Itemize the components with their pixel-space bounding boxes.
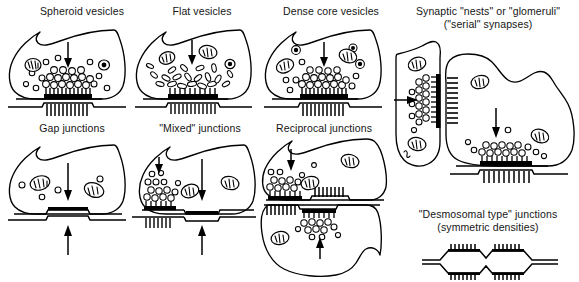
postsynaptic-density-right	[447, 78, 458, 123]
mitochondrion	[179, 182, 200, 200]
signal-direction-arrow-up	[316, 237, 324, 259]
mitochondrion	[274, 56, 296, 75]
synaptic-vesicles-left	[409, 61, 429, 132]
panel-synaptic-nests	[392, 34, 578, 196]
desmosomal-density-lower	[448, 272, 524, 280]
presynaptic-density	[144, 206, 176, 210]
flattened-vesicles	[146, 63, 234, 90]
postsynaptic-density-lower	[267, 205, 295, 215]
presynaptic-projections	[46, 88, 90, 94]
mitochondrion	[270, 230, 290, 246]
synaptic-vesicles	[144, 170, 181, 201]
panel-desmosomal-junctions	[420, 238, 560, 280]
mitochondrion	[220, 174, 241, 191]
panel-label-mixed-junctions: "Mixed" junctions	[140, 122, 260, 134]
presynaptic-density-upper	[268, 196, 302, 200]
presynaptic-projections	[170, 88, 215, 94]
panel-reciprocal-junctions	[258, 133, 388, 282]
panel-label-flat-vesicles: Flat vesicles	[150, 5, 254, 17]
mitochondrion	[99, 60, 110, 70]
panel-gap-junctions	[2, 135, 130, 260]
mitochondrion	[406, 55, 427, 73]
panel-label-dense-core-vesicles: Dense core vesicles	[272, 5, 390, 17]
panel-dense-core-vesicles	[256, 18, 386, 118]
mitochondrion	[198, 44, 218, 60]
panel-label-synaptic-nests-line1: Synaptic "nests" or "glomeruli"	[398, 5, 578, 17]
presynaptic-density-lower	[302, 209, 336, 213]
presynaptic-projections-right	[482, 156, 527, 161]
signal-direction-arrow	[188, 40, 196, 65]
presynaptic-density	[300, 94, 348, 99]
mitochondrion	[340, 152, 361, 169]
signal-direction-arrow-down	[492, 108, 500, 138]
postsynaptic-density	[303, 104, 343, 116]
mitochondrion	[470, 73, 491, 90]
postsynaptic-density	[171, 104, 215, 114]
presynaptic-projections	[146, 201, 171, 206]
mitochondrion	[29, 174, 52, 193]
signal-direction-arrow-up	[198, 225, 206, 255]
gap-junction-bar	[186, 211, 218, 214]
panel-label-desmosomal-line1: "Desmosomal type" junctions	[398, 208, 578, 220]
synaptic-vesicles-lower	[295, 219, 340, 240]
panel-label-desmosomal-line2: (symmetric densities)	[398, 221, 578, 233]
signal-direction-arrow-down	[287, 149, 295, 171]
signal-direction-arrow	[320, 42, 328, 67]
presynaptic-projections	[302, 88, 346, 94]
presynaptic-projections-upper	[270, 191, 300, 196]
panel-label-synaptic-nests-line2: ("serial" synapses)	[398, 18, 578, 30]
desmosomal-density-upper	[448, 244, 524, 252]
presynaptic-density	[44, 94, 92, 99]
signal-direction-arrow-down	[64, 163, 72, 201]
postsynaptic-density-bottom	[484, 171, 529, 183]
mitochondrion	[157, 50, 176, 67]
gap-junction-bar	[48, 207, 88, 210]
panel-label-spheroid-vesicles: Spheroid vesicles	[22, 5, 142, 17]
panel-mixed-junctions	[128, 135, 260, 260]
signal-direction-arrow	[64, 42, 72, 68]
mitochondrion	[529, 127, 550, 145]
presynaptic-projections-lower	[304, 213, 334, 218]
synaptic-vesicles	[283, 59, 359, 93]
presynaptic-projections-left	[431, 77, 436, 122]
presynaptic-density-left	[436, 74, 441, 128]
postsynaptic-density	[47, 104, 87, 116]
signal-direction-arrow-up	[64, 225, 72, 255]
panel-spheroid-vesicles	[2, 18, 130, 118]
presynaptic-density	[168, 94, 218, 99]
postsynaptic-density	[146, 218, 170, 228]
mitochondrion	[82, 180, 106, 200]
mitochondrion	[25, 59, 41, 72]
panel-label-gap-junctions: Gap junctions	[18, 122, 126, 134]
cytoplasm-detail	[404, 151, 410, 158]
mitochondrion	[225, 59, 235, 68]
panel-flat-vesicles	[130, 18, 256, 118]
presynaptic-density-right	[480, 161, 532, 166]
mitochondrion	[407, 136, 427, 152]
signal-direction-arrow-down	[198, 159, 206, 201]
